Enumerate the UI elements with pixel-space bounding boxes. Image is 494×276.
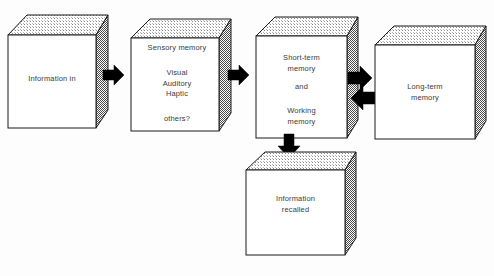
box-front-face [375, 45, 475, 139]
box-top-face [246, 152, 356, 170]
information-in-box [8, 15, 108, 128]
box-front-face [246, 170, 345, 255]
memory-model-diagram: Information in Sensory memory Visual Aud… [0, 0, 494, 276]
sensory-memory-box [131, 19, 231, 131]
short-term-memory-box [256, 17, 358, 138]
diagram-canvas [0, 0, 494, 276]
box-side-face [345, 152, 356, 255]
box-top-face [375, 26, 486, 45]
box-front-face [256, 36, 347, 138]
box-front-face [131, 38, 219, 131]
box-top-face [131, 19, 231, 38]
box-top-face [8, 15, 108, 35]
box-front-face [8, 35, 96, 128]
box-side-face [475, 26, 486, 139]
long-term-memory-box [375, 26, 486, 139]
information-recalled-box [246, 152, 356, 255]
box-top-face [256, 17, 358, 36]
